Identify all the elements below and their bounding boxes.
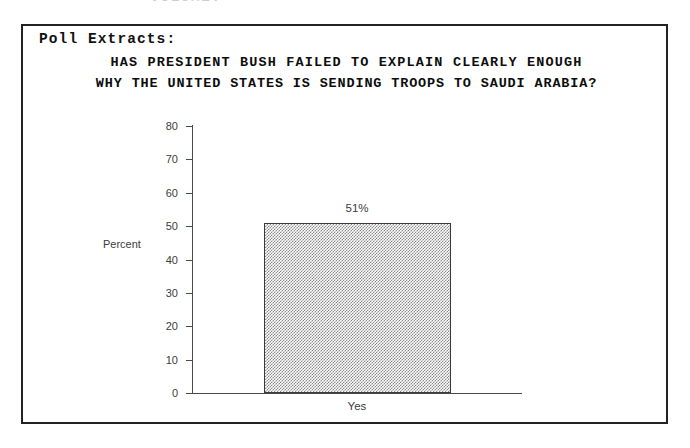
poll-extracts-panel: Poll Extracts: HAS PRESIDENT BUSH FAILED… (21, 24, 668, 424)
y-axis-tick (186, 260, 193, 261)
y-axis-tick-label: 70 (138, 153, 178, 165)
y-axis-tick-label: 80 (138, 120, 178, 132)
bar-chart-plot-area: Percent 01020304050607080 51%Yes (23, 26, 670, 422)
y-axis-tick (186, 126, 193, 127)
y-axis-tick (186, 226, 193, 227)
y-axis-tick (186, 326, 193, 327)
bar-yes (264, 223, 451, 393)
y-axis-tick-label: 60 (138, 187, 178, 199)
y-axis-tick (186, 293, 193, 294)
y-axis-tick (186, 360, 193, 361)
x-axis-line (192, 393, 522, 394)
scan-top-cut-text: VOLUME: (0, 0, 690, 9)
y-axis-tick-label: 0 (138, 387, 178, 399)
y-axis-tick-label: 30 (138, 287, 178, 299)
y-axis-tick-label: 40 (138, 254, 178, 266)
y-axis-tick-label: 20 (138, 320, 178, 332)
y-axis-tick-label: 10 (138, 354, 178, 366)
x-axis-category-label: Yes (297, 400, 417, 412)
y-axis-tick (186, 159, 193, 160)
y-axis-tick-label: 50 (138, 220, 178, 232)
y-axis-tick (186, 193, 193, 194)
y-axis-tick (186, 393, 193, 394)
bar-value-label: 51% (297, 202, 417, 214)
scan-top-cut-text-label: VOLUME: (150, 0, 221, 6)
y-axis-label: Percent (103, 238, 141, 250)
